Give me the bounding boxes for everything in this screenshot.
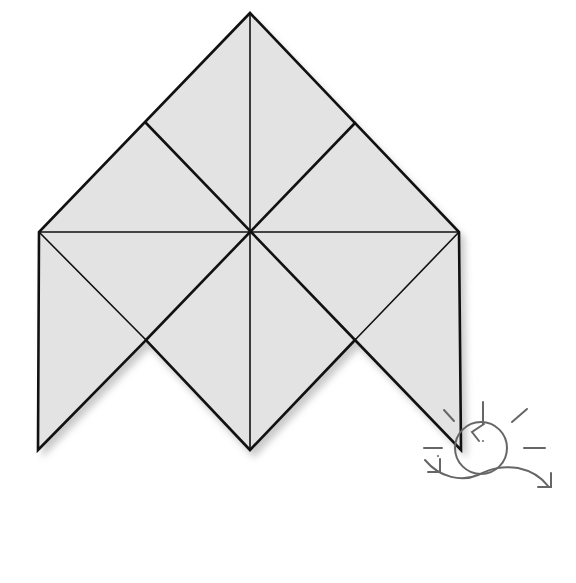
rotate-icon-circle-arrowhead — [472, 424, 484, 441]
ray-diag-right — [512, 409, 527, 422]
tiling-diagram — [0, 0, 576, 583]
rotate-icon-right-arrowhead — [538, 473, 551, 487]
